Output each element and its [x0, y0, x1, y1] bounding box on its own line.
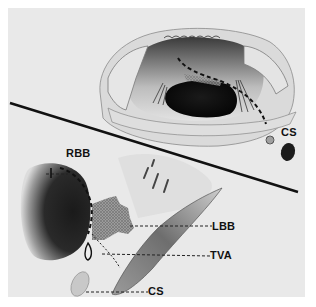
- top-panel-atrium: [100, 28, 297, 162]
- label-cs-bottom: CS: [148, 285, 164, 297]
- label-cs-top: CS: [281, 126, 297, 138]
- bottom-panel-conduction: [21, 154, 222, 297]
- label-lbb: LBB: [212, 220, 235, 232]
- illustration-drawing: [8, 8, 305, 297]
- medical-illustration: CS RBB LBB TVA CS: [8, 8, 305, 297]
- label-tva: TVA: [210, 249, 232, 261]
- label-rbb: RBB: [66, 147, 90, 159]
